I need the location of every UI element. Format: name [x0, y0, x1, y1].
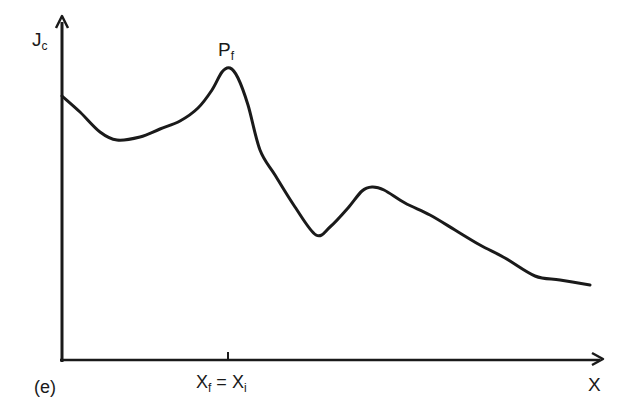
jc-curve [62, 68, 590, 285]
y-axis-label-sub: c [42, 39, 48, 53]
x-axis-label: X [588, 375, 601, 394]
tick-label-xi-sub: i [244, 381, 247, 395]
plot-canvas [0, 0, 634, 411]
x-tick-label: Xf = Xi [196, 373, 247, 394]
tick-label-equals: = [211, 372, 232, 392]
y-axis-label-main: J [32, 29, 42, 50]
peak-label-main: P [218, 39, 231, 60]
peak-label-sub: f [231, 49, 234, 63]
peak-label: Pf [218, 40, 234, 62]
panel-label: (e) [34, 378, 56, 396]
y-axis-label: Jc [32, 30, 48, 52]
tick-label-xf-main: X [196, 372, 208, 392]
tick-label-xi-main: X [232, 372, 244, 392]
